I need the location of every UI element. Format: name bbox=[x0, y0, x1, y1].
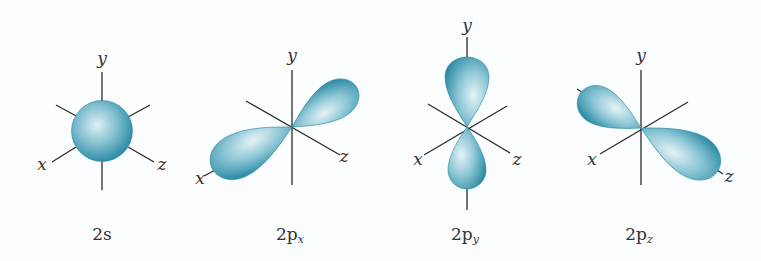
axis-label-y: y bbox=[96, 48, 107, 68]
orbital-diagram: y x z 2s y x z 2px y x z 2py bbox=[0, 0, 761, 261]
axis-label-z: z bbox=[157, 154, 168, 174]
axis-label-z: z bbox=[512, 149, 523, 169]
caption-2py: 2py bbox=[451, 224, 480, 246]
axis-label-y: y bbox=[461, 15, 472, 35]
axis-label-y: y bbox=[635, 45, 646, 65]
orbital-2px: y x z 2px bbox=[195, 45, 366, 246]
orbital-2s: y x z 2s bbox=[37, 48, 167, 244]
axis-label-z: z bbox=[339, 146, 350, 166]
p-orbital-lobe-upper bbox=[445, 57, 489, 127]
x-axis-lower bbox=[52, 147, 76, 162]
axis-label-x: x bbox=[413, 149, 423, 169]
axis-label-x: x bbox=[587, 149, 597, 169]
p-orbital-lobe-upper-left bbox=[570, 78, 650, 144]
p-orbital-lobe-upper-right bbox=[282, 71, 367, 143]
orbital-2py: y x z 2py bbox=[413, 15, 522, 246]
axis-label-y: y bbox=[286, 45, 297, 65]
axis-label-x: x bbox=[37, 154, 47, 174]
orbital-2pz: y x z 2pz bbox=[570, 45, 734, 246]
s-orbital-sphere bbox=[72, 101, 133, 162]
caption-2pz: 2pz bbox=[625, 224, 653, 246]
p-orbital-lobe-lower-left bbox=[202, 108, 302, 189]
p-orbital-lobe-lower-right bbox=[631, 109, 729, 189]
p-orbital-lobe-lower bbox=[448, 127, 486, 189]
axis-label-z: z bbox=[724, 166, 735, 186]
x-axis-upper bbox=[56, 105, 78, 117]
axis-label-x: x bbox=[195, 168, 205, 188]
z-axis-lower bbox=[128, 147, 154, 162]
caption-2s: 2s bbox=[92, 224, 112, 244]
z-axis-upper bbox=[128, 105, 150, 117]
caption-2px: 2px bbox=[276, 224, 305, 246]
